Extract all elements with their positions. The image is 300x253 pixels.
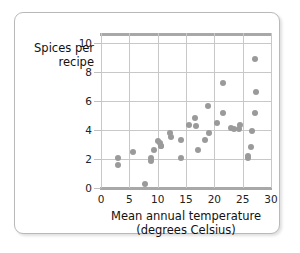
gridline-vertical xyxy=(129,33,130,188)
scatter-point xyxy=(178,137,184,143)
scatter-point xyxy=(205,103,211,109)
scatter-point xyxy=(148,158,154,164)
figure-root: 0246810 051015202530 Spices per recipe M… xyxy=(0,0,300,253)
scatter-point xyxy=(202,137,208,143)
scatter-point xyxy=(220,110,226,116)
y-axis-tick-labels: 0246810 xyxy=(70,0,92,253)
scatter-point xyxy=(248,144,254,150)
x-axis-title: Mean annual temperature (degrees Celsius… xyxy=(95,210,277,237)
scatter-point xyxy=(245,155,251,161)
y-axis-tick-mark xyxy=(94,159,101,160)
gridline-vertical xyxy=(186,33,187,188)
scatter-point xyxy=(115,162,121,168)
y-axis-tick-label: 0 xyxy=(85,183,92,194)
gridline-vertical xyxy=(214,33,215,188)
y-axis-tick-mark xyxy=(94,43,101,44)
scatter-point xyxy=(252,110,258,116)
gridline-horizontal xyxy=(101,130,271,131)
scatter-point xyxy=(158,143,164,149)
scatter-point xyxy=(220,80,226,86)
y-axis-tick-label: 2 xyxy=(85,154,92,165)
scatter-point xyxy=(178,155,184,161)
y-axis-tick-label: 4 xyxy=(85,125,92,136)
scatter-point xyxy=(252,56,258,62)
gridline-horizontal xyxy=(101,43,271,44)
x-axis-tick-labels: 051015202530 xyxy=(0,194,300,208)
y-axis-title: Spices per recipe xyxy=(22,42,94,69)
scatter-plot-area xyxy=(101,33,271,188)
gridline-horizontal xyxy=(101,72,271,73)
scatter-point xyxy=(214,120,220,126)
gridline-vertical xyxy=(243,33,244,188)
scatter-point xyxy=(253,89,259,95)
x-axis-tick-label: 10 xyxy=(151,194,164,205)
y-axis-tick-mark xyxy=(94,188,101,189)
scatter-point xyxy=(142,181,148,187)
scatter-point xyxy=(115,155,121,161)
scatter-point xyxy=(237,122,243,128)
y-axis-title-line-2: recipe xyxy=(22,56,94,70)
y-axis-tick-label: 6 xyxy=(85,96,92,107)
gridline-vertical xyxy=(101,33,102,188)
scatter-point xyxy=(151,147,157,153)
x-axis-title-line-2: (degrees Celsius) xyxy=(95,224,277,238)
x-axis-tick-label: 0 xyxy=(98,194,105,205)
gridline-horizontal xyxy=(101,101,271,102)
scatter-point xyxy=(186,122,192,128)
scatter-point xyxy=(192,115,198,121)
x-axis-tick-label: 20 xyxy=(208,194,221,205)
scatter-point xyxy=(168,134,174,140)
gridline-vertical xyxy=(271,33,272,188)
y-axis-tick-mark xyxy=(94,72,101,73)
x-axis-tick-label: 5 xyxy=(126,194,133,205)
x-axis-tick-label: 25 xyxy=(236,194,249,205)
y-axis-title-line-1: Spices per xyxy=(22,42,94,56)
y-axis-tick-mark xyxy=(94,130,101,131)
x-axis-tick-label: 30 xyxy=(264,194,277,205)
y-axis-tick-mark xyxy=(94,101,101,102)
scatter-point xyxy=(195,147,201,153)
scatter-point xyxy=(249,128,255,134)
scatter-point xyxy=(130,149,136,155)
x-axis-title-line-1: Mean annual temperature xyxy=(95,210,277,224)
x-axis-tick-label: 15 xyxy=(179,194,192,205)
gridline-vertical xyxy=(158,33,159,188)
scatter-point xyxy=(206,130,212,136)
scatter-point xyxy=(193,123,199,129)
